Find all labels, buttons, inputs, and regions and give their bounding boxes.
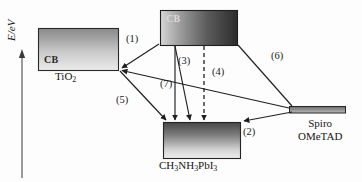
tio2-caption: TiO2 (55, 70, 76, 84)
y-axis-label-text: E/eV (5, 19, 17, 40)
process-label-1: (1) (126, 33, 138, 44)
y-axis-label: E/eV (4, 8, 18, 52)
energy-band-diagram: E/eV CB CB TiO2 CH3NH3PbI3 Spiro OMeTAD … (0, 0, 362, 182)
process-label-3: (3) (178, 55, 190, 66)
spiro-caption-line-2: OMeTAD (298, 130, 342, 143)
perovskite-valence-band-box (164, 123, 241, 159)
process-arrow-7 (122, 71, 289, 109)
diagram-canvas (0, 0, 362, 182)
perovskite-cb-label: CB (166, 13, 180, 24)
process-label-2: (2) (243, 126, 255, 137)
perovskite-caption: CH3NH3PbI3 (159, 159, 217, 173)
tio2-cb-label: CB (44, 54, 58, 65)
process-arrow-2 (244, 112, 292, 121)
process-arrow-6 (238, 45, 292, 106)
process-label-6: (6) (271, 50, 283, 61)
spiro-ometad-level-bar (290, 107, 346, 114)
process-label-7: (7) (160, 78, 172, 89)
process-label-5: (5) (116, 94, 128, 105)
y-axis-arrow (19, 49, 25, 178)
spiro-ometad-caption: Spiro OMeTAD (298, 117, 342, 143)
process-arrow-1 (122, 44, 159, 68)
spiro-caption-line-1: Spiro (298, 117, 342, 130)
process-label-4: (4) (212, 66, 224, 77)
